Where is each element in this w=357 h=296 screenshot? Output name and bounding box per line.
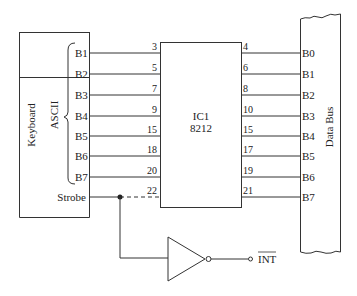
ascii-brace	[64, 43, 75, 184]
bus-b0: B0	[302, 47, 315, 59]
pin-9: 9	[152, 104, 157, 115]
data-bus-label: Data Bus	[323, 107, 335, 148]
pin-18: 18	[147, 144, 157, 155]
kb-b2: B2	[75, 68, 88, 80]
pin-15-in: 15	[147, 124, 157, 135]
pin-22: 22	[147, 185, 157, 196]
int-terminal	[249, 257, 253, 261]
ic1-part: 8212	[190, 122, 212, 134]
pin-19: 19	[243, 165, 253, 176]
kb-b3: B3	[75, 89, 88, 101]
bus-b3: B3	[302, 110, 315, 122]
keyboard-outputs: B1 B2 B3 B4 B5 B6 B7 Strobe	[57, 47, 88, 203]
pin-4: 4	[243, 41, 248, 52]
kb-b5: B5	[75, 130, 88, 142]
inverter-bubble	[206, 257, 211, 262]
ic-input-pins: 3 5 7 9 15 18 20 22	[147, 41, 157, 196]
pin-15-out: 15	[243, 124, 253, 135]
kb-strobe: Strobe	[57, 191, 86, 203]
ic-output-pins: 4 6 8 10 15 17 19 21	[243, 41, 253, 196]
data-bus-lines: B0 B1 B2 B3 B4 B5 B6 B7	[302, 47, 315, 203]
kb-b4: B4	[75, 110, 88, 122]
pin-10: 10	[243, 104, 253, 115]
pin-21: 21	[243, 185, 253, 196]
ic1-name: IC1	[193, 110, 210, 122]
bus-b7: B7	[302, 191, 315, 203]
pin-5: 5	[152, 62, 157, 73]
pin-20: 20	[147, 165, 157, 176]
keyboard-label: Keyboard	[25, 103, 37, 147]
pin-6: 6	[243, 62, 248, 73]
kb-b6: B6	[75, 150, 88, 162]
bus-b1: B1	[302, 68, 315, 80]
pin-17: 17	[243, 144, 253, 155]
pin-8: 8	[243, 83, 248, 94]
schematic-diagram: Keyboard ASCII B1 B2 B3 B4 B5 B6 B7 Stro…	[0, 0, 357, 296]
kb-b1: B1	[75, 47, 88, 59]
bus-b2: B2	[302, 89, 315, 101]
int-label: INT	[258, 253, 277, 265]
bus-b6: B6	[302, 171, 315, 183]
inverter-buffer-icon	[168, 237, 205, 281]
ascii-label: ASCII	[48, 100, 60, 129]
bus-b5: B5	[302, 150, 315, 162]
bus-b4: B4	[302, 130, 315, 142]
pin-3: 3	[152, 41, 157, 52]
kb-b7: B7	[75, 171, 88, 183]
pin-7: 7	[152, 83, 157, 94]
